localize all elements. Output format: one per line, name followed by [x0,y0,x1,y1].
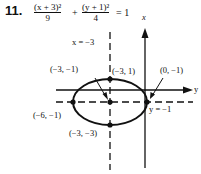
left-vertex-point [70,99,75,104]
vertical-axis-arrow-icon [142,28,149,38]
bottom-vertex-point [107,122,112,127]
y-eq-neg1-label: y = −1 [149,104,171,114]
ellipse-graph [0,0,201,174]
x-eq-neg3-label: x = −3 [72,37,94,47]
left-vertex-label: (−6, −1) [33,110,61,120]
right-vertex-leader-line [152,78,163,96]
top-vertex-point [107,76,112,81]
bottom-vertex-label: (−3, −3) [69,128,97,138]
center-point-label: (−3, −1) [50,64,78,74]
vertical-axis-label: x [142,12,146,22]
top-vertex-label: (−3, 1) [112,66,135,76]
horizontal-axis-label: y [194,84,198,94]
right-vertex-label: (0, −1) [160,65,183,75]
center-point [107,99,112,104]
horizontal-axis-arrow-icon [183,87,193,94]
